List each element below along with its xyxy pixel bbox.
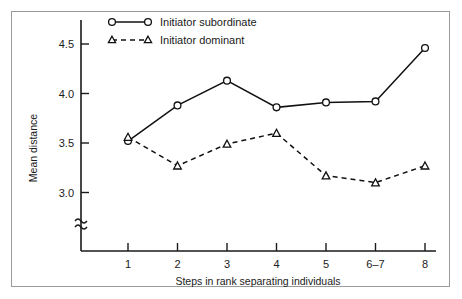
chart-canvas: 4.5 4.0 3.5 3.0 Mean distance 1 2 3 4 5 … [0,0,462,299]
data-point-triangle [124,133,132,140]
x-tick-marks [128,243,425,251]
data-point-triangle [273,129,281,136]
y-axis-title: Mean distance [27,114,39,182]
y-tick-label-4-0: 4.0 [59,88,74,100]
data-point-circle [224,77,231,84]
data-point-triangle [421,162,429,169]
y-tick-label-3-0: 3.0 [59,187,74,199]
data-point-circle [273,104,280,111]
legend-entry-initiator-dominant[interactable]: Initiator dominant [108,34,244,46]
triangle-icon [108,36,115,42]
x-tick-label-1: 1 [125,258,131,270]
x-tick-label-8: 8 [422,258,428,270]
y-tick-marks [81,44,89,193]
x-tick-label-6-7: 6–7 [366,258,384,270]
data-point-triangle [223,140,231,147]
data-point-circle [323,99,330,106]
legend-entry-initiator-subordinate[interactable]: Initiator subordinate [109,16,257,28]
legend-label-initiator-subordinate: Initiator subordinate [160,16,257,28]
x-tick-label-5: 5 [323,258,329,270]
data-point-circle [174,102,181,109]
circle-icon [109,19,116,26]
x-tick-label-2: 2 [174,258,180,270]
x-tick-label-4: 4 [273,258,279,270]
legend-label-initiator-dominant: Initiator dominant [160,34,244,46]
data-point-circle [422,45,429,52]
figure-container: 4.5 4.0 3.5 3.0 Mean distance 1 2 3 4 5 … [0,0,462,299]
chart-legend: Initiator subordinate Initiator dominant [108,16,256,46]
x-tick-label-3: 3 [224,258,230,270]
triangle-icon [144,36,151,42]
data-point-circle [372,98,379,105]
x-axis-title: Steps in rank separating individuals [175,275,340,287]
series-initiator-dominant [124,129,429,186]
y-tick-label-4-5: 4.5 [59,38,74,50]
data-point-triangle [174,162,182,169]
circle-icon [145,19,152,26]
y-tick-label-3-5: 3.5 [59,137,74,149]
